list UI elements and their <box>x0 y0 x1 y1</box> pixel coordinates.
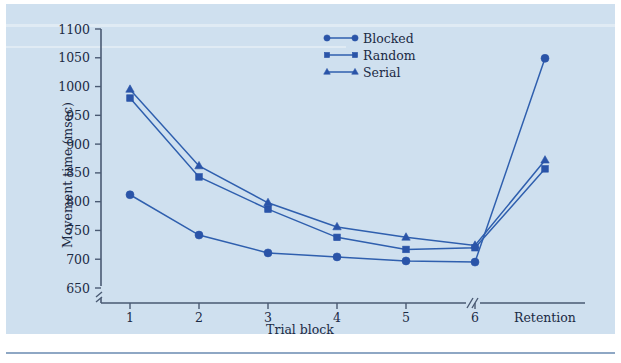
data-point-square-marker <box>196 174 203 181</box>
series-line <box>130 58 545 262</box>
legend-label: Blocked <box>363 31 414 46</box>
y-axis-title: Movement time (msec) <box>60 102 75 248</box>
legend-label: Random <box>363 48 416 63</box>
x-axis-break-mark <box>467 298 478 308</box>
x-tick-group: 123456Retention <box>126 303 576 325</box>
axes-group <box>96 29 585 308</box>
data-point-circle-marker <box>126 191 134 199</box>
x-tick-label: 2 <box>195 310 203 325</box>
line-chart: 650700750800850900950100010501100 123456… <box>0 0 621 363</box>
data-point-circle-marker <box>333 253 341 261</box>
legend-item-random: Random <box>324 48 415 63</box>
data-point-circle-marker <box>402 257 410 265</box>
data-point-circle-marker <box>352 35 358 41</box>
data-point-square-marker <box>352 52 357 57</box>
y-tick-label: 650 <box>66 281 90 296</box>
data-point-circle-marker <box>264 249 272 257</box>
data-point-square-marker <box>324 52 329 57</box>
legend-group: BlockedRandomSerial <box>324 31 416 80</box>
x-axis-title: Trial block <box>266 322 334 337</box>
series-group <box>126 54 549 266</box>
data-point-circle-marker <box>541 54 549 62</box>
data-point-square-marker <box>334 234 341 241</box>
series-line <box>130 89 545 245</box>
data-point-square-marker <box>127 95 134 102</box>
legend-item-serial: Serial <box>324 65 401 80</box>
figure-container: 650700750800850900950100010501100 123456… <box>0 0 621 363</box>
x-tick-label: 4 <box>333 310 341 325</box>
x-tick-label: 1 <box>126 310 134 325</box>
x-tick-label: 6 <box>471 310 479 325</box>
data-point-triangle-marker <box>541 156 549 163</box>
data-point-square-marker <box>403 246 410 253</box>
legend-item-blocked: Blocked <box>324 31 414 46</box>
data-point-circle-marker <box>324 35 330 41</box>
y-tick-label: 1050 <box>58 50 90 65</box>
data-point-square-marker <box>542 166 549 173</box>
x-tick-label: 5 <box>402 310 410 325</box>
data-point-triangle-marker <box>126 85 134 92</box>
y-tick-label: 700 <box>66 252 90 267</box>
data-point-circle-marker <box>471 258 479 266</box>
y-tick-label: 1000 <box>58 79 90 94</box>
data-point-square-marker <box>265 206 272 213</box>
y-tick-label: 1100 <box>58 22 90 37</box>
legend-label: Serial <box>363 65 400 80</box>
data-point-circle-marker <box>195 231 203 239</box>
x-tick-label: Retention <box>514 310 576 325</box>
